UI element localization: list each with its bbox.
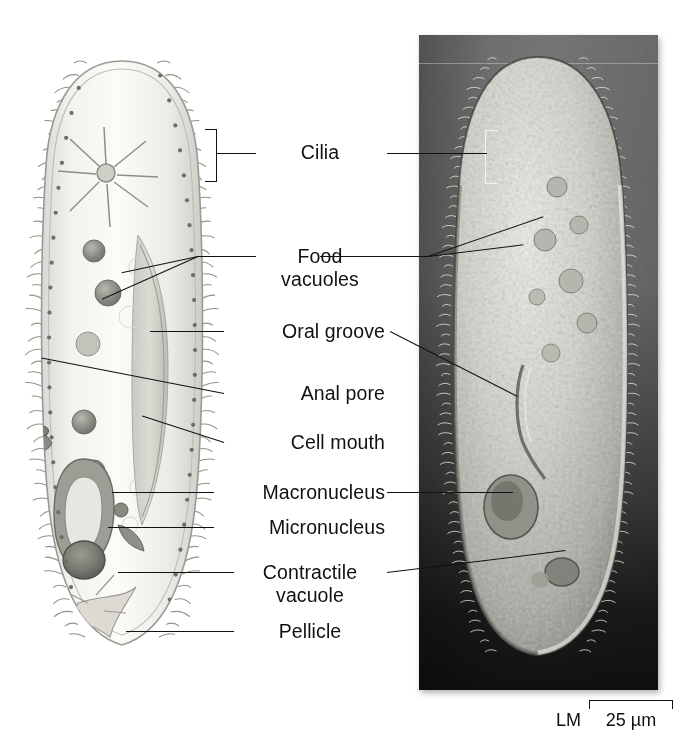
label-contractile-vacuole: Contractile vacuole [235,561,385,607]
scale-bar-value: 25 µm [606,710,656,731]
label-oral-groove-text: Oral groove [282,320,385,342]
leader-macronucleus-right [387,492,513,493]
label-cilia-text: Cilia [301,141,339,163]
label-macronucleus: Macronucleus [215,481,385,504]
label-pellicle: Pellicle [235,620,385,643]
leader-oral-groove-left [150,331,224,332]
micrograph-contractile-vacuole [545,558,579,586]
leader-pellicle-left [126,631,234,632]
label-anal-pore: Anal pore [225,382,385,405]
label-pellicle-text: Pellicle [279,620,342,642]
scale-bar-wrap: 25 µm [589,700,673,731]
leader-micronucleus-left [108,527,214,528]
label-micronucleus: Micronucleus [215,516,385,539]
label-contractile-vacuole-text: Contractile [263,561,357,583]
leader-food-right [320,256,428,257]
macronucleus-core [491,481,523,521]
macronucleus-lumen [65,477,102,551]
label-contractile-vacuole-text2: vacuole [235,584,385,607]
label-micronucleus-text: Micronucleus [269,516,385,538]
label-anal-pore-text: Anal pore [301,382,385,404]
leader-contractile-left [118,572,234,573]
leader-cilia-right [387,153,487,154]
label-oral-groove: Oral groove [225,320,385,343]
label-cell-mouth-text: Cell mouth [291,431,385,453]
cilia-bracket-illustration [205,129,217,182]
anal-pore-dot [40,427,49,436]
leader-cilia-left [216,153,256,154]
paramecium-figure: Cilia Food vacuoles Oral groove Anal por… [0,0,695,752]
leader-food-left [198,256,256,257]
label-food-vacuoles: Food vacuoles [255,245,385,291]
cilia-bracket-micrograph [485,130,498,184]
paramecium-micrograph [419,35,658,690]
label-cell-mouth: Cell mouth [225,431,385,454]
scale-bar: LM 25 µm [556,700,673,731]
microscopy-type-label: LM [556,711,581,731]
label-food-vacuoles-text2: vacuoles [255,268,385,291]
label-macronucleus-text: Macronucleus [262,481,385,503]
micronucleus-shape [63,541,105,579]
label-cilia: Cilia [255,141,385,164]
leader-macronucleus-left [112,492,214,493]
micrograph-cell [419,35,658,690]
scale-bar-bracket [589,700,673,709]
micrograph-micronucleus [531,572,549,588]
